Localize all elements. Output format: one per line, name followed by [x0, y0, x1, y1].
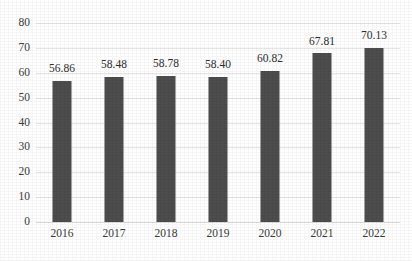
- x-axis-tick-label: 2021: [311, 228, 334, 240]
- bar-group: 60.82: [244, 23, 296, 222]
- bar-value-label: 60.82: [257, 53, 283, 65]
- x-axis-tick-label: 2022: [363, 228, 386, 240]
- bar-value-label: 70.13: [361, 30, 387, 42]
- bar-group: 58.48: [88, 23, 140, 222]
- bar-value-label: 67.81: [309, 36, 335, 48]
- x-axis-tick-label: 2018: [155, 228, 178, 240]
- y-axis-tick-label: 30: [19, 142, 31, 154]
- bar-group: 58.78: [140, 23, 192, 222]
- bar[interactable]: [53, 81, 72, 222]
- bar[interactable]: [261, 71, 280, 222]
- bar-group: 56.86: [36, 23, 88, 222]
- y-axis-tick-label: 70: [19, 42, 31, 54]
- y-axis-tick-label: 0: [24, 216, 30, 228]
- x-axis-tick-label: 2020: [259, 228, 282, 240]
- bar[interactable]: [209, 77, 228, 222]
- y-axis-tick-label: 40: [19, 117, 31, 129]
- bar-group: 67.81: [296, 23, 348, 222]
- gridline: [36, 222, 400, 223]
- y-axis-tick-label: 10: [19, 191, 31, 203]
- bar-value-label: 58.78: [153, 58, 179, 70]
- y-axis-tick-label: 80: [19, 17, 31, 29]
- x-axis: 2016201720182019202020212022: [36, 228, 400, 248]
- bar[interactable]: [157, 76, 176, 222]
- bar[interactable]: [105, 77, 124, 222]
- bar-value-label: 58.48: [101, 59, 127, 71]
- bar[interactable]: [365, 48, 384, 222]
- bar-chart: 01020304050607080 56.8658.4858.7858.4060…: [0, 0, 412, 261]
- bar-value-label: 58.40: [205, 59, 231, 71]
- bar-value-label: 56.86: [49, 63, 75, 75]
- x-axis-tick-label: 2019: [207, 228, 230, 240]
- bar[interactable]: [313, 53, 332, 222]
- bar-group: 70.13: [348, 23, 400, 222]
- plot-area: 56.8658.4858.7858.4060.8267.8170.13: [36, 23, 400, 222]
- x-axis-tick-label: 2017: [103, 228, 126, 240]
- y-axis-tick-label: 20: [19, 167, 31, 179]
- y-axis-tick-label: 50: [19, 92, 31, 104]
- x-axis-tick-label: 2016: [51, 228, 74, 240]
- y-axis: 01020304050607080: [0, 23, 30, 222]
- bar-group: 58.40: [192, 23, 244, 222]
- y-axis-tick-label: 60: [19, 67, 31, 79]
